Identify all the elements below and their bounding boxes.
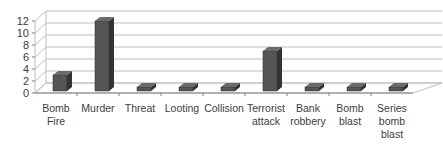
bar bbox=[305, 83, 324, 91]
bar bbox=[347, 83, 366, 91]
x-category-label: Seriesbombblast bbox=[377, 102, 407, 140]
x-axis-labels: BombFireMurderThreatLootingCollisionTerr… bbox=[42, 102, 407, 140]
bar bbox=[53, 71, 72, 91]
bar bbox=[389, 83, 408, 91]
x-category-label: Bombblast bbox=[336, 102, 364, 127]
y-tick-label: 4 bbox=[23, 63, 29, 75]
x-category-label: BombFire bbox=[42, 102, 70, 127]
bar bbox=[179, 83, 198, 91]
bar bbox=[137, 83, 156, 91]
x-category-label: Threat bbox=[125, 102, 155, 114]
bar-chart: 024681012 BombFireMurderThreatLootingCol… bbox=[0, 0, 443, 150]
x-category-label: Looting bbox=[165, 102, 200, 114]
x-category-label: Murder bbox=[81, 102, 115, 114]
bar bbox=[263, 47, 282, 91]
y-tick-label: 12 bbox=[17, 15, 29, 27]
y-tick-label: 0 bbox=[23, 87, 29, 99]
x-category-label: Bankrobbery bbox=[290, 102, 326, 127]
y-tick-label: 8 bbox=[23, 39, 29, 51]
y-axis-ticks: 024681012 bbox=[17, 15, 29, 99]
x-category-label: Collision bbox=[204, 102, 244, 114]
bar bbox=[95, 17, 114, 91]
y-tick-label: 2 bbox=[23, 75, 29, 87]
y-tick-label: 10 bbox=[17, 27, 29, 39]
bars bbox=[53, 17, 408, 91]
bar bbox=[221, 83, 240, 91]
y-tick-label: 6 bbox=[23, 51, 29, 63]
x-category-label: Terroristattack bbox=[247, 102, 285, 127]
